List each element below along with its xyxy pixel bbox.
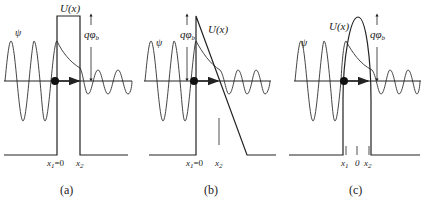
particle-dot [190, 77, 198, 85]
tunneling-barrier-figure: U(x) ψ qφb x1=0 x2 (a) U(x) ψ qφb x1=0 x… [0, 0, 425, 204]
barrier-label: U(x) [329, 20, 349, 33]
caption-c: (c) [349, 183, 362, 197]
panel-c: U(x) ψ qφb x1 0 x2 (c) [289, 15, 421, 197]
x1-label: x1=0 [185, 158, 204, 170]
decaying-wave [57, 41, 80, 68]
decaying-wave [196, 41, 220, 70]
caption-b: (b) [204, 183, 218, 197]
transmitted-wave [372, 70, 420, 94]
barrier-label: U(x) [208, 23, 228, 36]
x1-label: x1=0 [46, 158, 65, 170]
x2-label: x2 [75, 158, 84, 170]
panel-a: U(x) ψ qφb x1=0 x2 (a) [4, 2, 132, 197]
wave-label: ψ [15, 27, 22, 38]
caption-a: (a) [60, 183, 73, 197]
rectangular-barrier [4, 16, 128, 155]
energy-label: qφb [370, 28, 386, 42]
barrier-label: U(x) [60, 2, 80, 15]
particle-dot [51, 77, 59, 85]
particle-dot [340, 77, 348, 85]
figure-canvas: U(x) ψ qφb x1=0 x2 (a) U(x) ψ qφb x1=0 x… [0, 0, 425, 204]
wave-label: ψ [156, 37, 163, 48]
zero-label: 0 [355, 158, 360, 168]
x2-label: x2 [214, 158, 223, 170]
panel-b: U(x) ψ qφb x1=0 x2 (b) [144, 15, 276, 197]
x2-label: x2 [363, 158, 372, 170]
wave-label: ψ [301, 37, 308, 48]
energy-label: qφb [180, 28, 196, 42]
triangular-barrier [149, 16, 276, 155]
transmitted-wave [220, 70, 270, 94]
parabolic-barrier [289, 17, 420, 155]
x1-label: x1 [340, 158, 349, 170]
energy-label: qφb [84, 28, 100, 42]
